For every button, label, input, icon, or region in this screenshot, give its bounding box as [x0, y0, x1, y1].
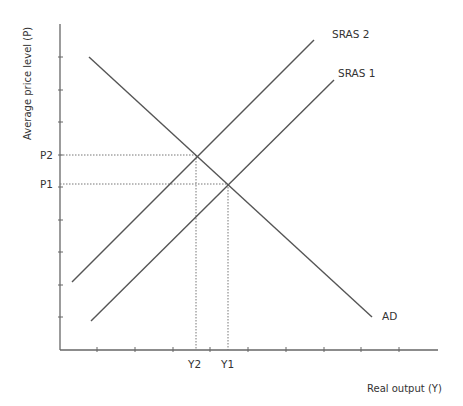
sras2-label: SRAS 2	[332, 28, 369, 40]
equilibrium-guides	[60, 155, 228, 350]
sras1-line	[91, 80, 334, 321]
p1-label: P1	[40, 178, 53, 190]
y-axis-title: Average price level (P)	[22, 27, 33, 140]
sras2-line	[72, 40, 314, 282]
p2-label: P2	[40, 149, 53, 161]
ad-line	[89, 57, 372, 317]
ad-label: AD	[382, 310, 397, 322]
y1-label: Y1	[220, 358, 234, 370]
y2-label: Y2	[187, 358, 201, 370]
aggregate-supply-demand-diagram: SRAS 2 SRAS 1 AD P2 P1 Y2 Y1 Average pri…	[0, 0, 463, 406]
x-axis-title: Real output (Y)	[367, 383, 442, 394]
sras1-label: SRAS 1	[338, 67, 375, 79]
axes	[60, 24, 438, 350]
curves	[72, 40, 372, 321]
